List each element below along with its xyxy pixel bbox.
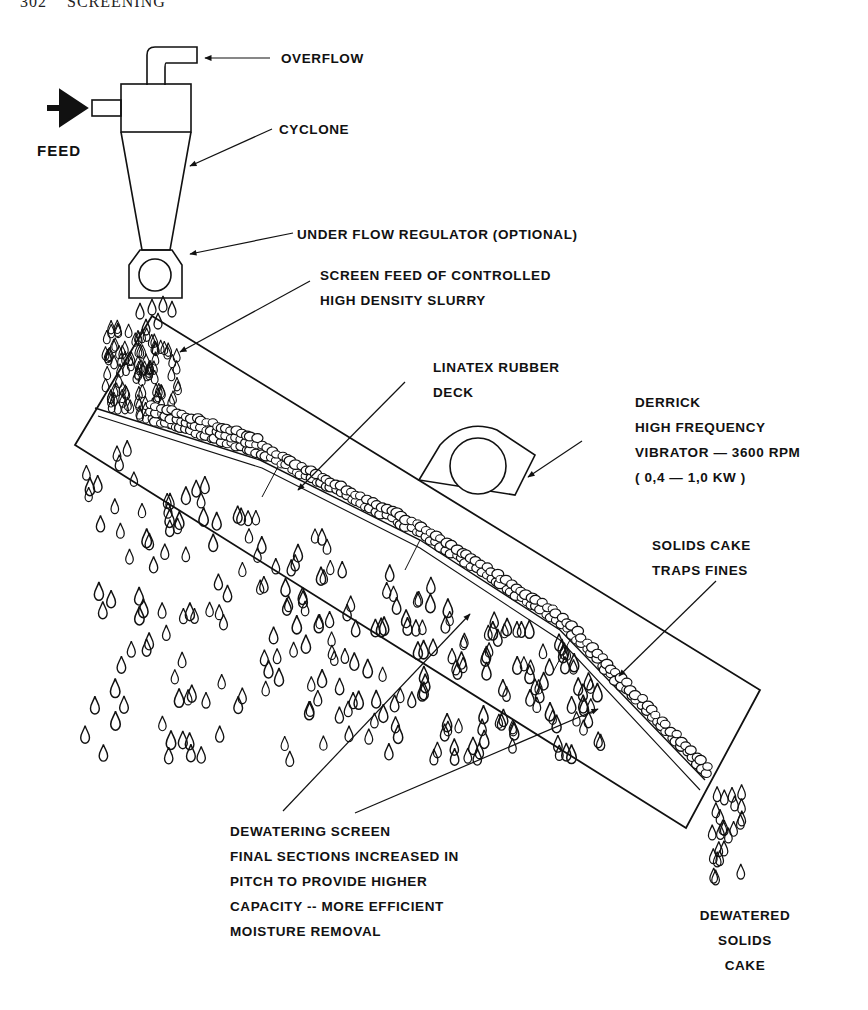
label-cyclone: CYCLONE: [279, 117, 349, 142]
label-underflow-regulator: UNDER FLOW REGULATOR (OPTIONAL): [297, 222, 578, 247]
solids-cake-particles: [102, 320, 712, 778]
leader-regulator: [190, 233, 293, 254]
label-screen-feed: SCREEN FEED OF CONTROLLED HIGH DENSITY S…: [320, 263, 551, 313]
feed-arrow-icon: [48, 90, 87, 126]
leader-cyclone: [190, 129, 272, 166]
label-dewatering-screen: DEWATERING SCREEN FINAL SECTIONS INCREAS…: [230, 819, 459, 944]
dewatered-cake-drops: [708, 784, 745, 885]
vibrator-motor-icon: [419, 426, 535, 495]
label-linatex-deck: LINATEX RUBBER DECK: [433, 355, 560, 405]
leader-linatex: [298, 382, 405, 490]
label-overflow: OVERFLOW: [281, 46, 364, 71]
label-vibrator: DERRICK HIGH FREQUENCY VIBRATOR — 3600 R…: [635, 390, 800, 490]
leader-screen-feed: [180, 281, 310, 352]
label-feed: FEED: [37, 138, 81, 163]
leader-dewatering-1: [283, 614, 470, 811]
label-solids-cake: SOLIDS CAKE TRAPS FINES: [652, 533, 751, 583]
leader-solids-cake: [619, 581, 716, 676]
regulator-icon: [129, 250, 182, 298]
label-dewatered-cake: DEWATERED SOLIDS CAKE: [690, 903, 800, 978]
leader-vibrator: [528, 441, 582, 477]
cyclone-icon: [92, 47, 197, 250]
